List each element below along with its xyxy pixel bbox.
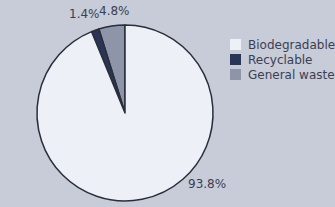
label-recyclable-pct: 1.4% <box>69 8 100 20</box>
swatch-biodegradable <box>230 39 241 50</box>
legend-label: Recyclable <box>248 54 313 66</box>
slice-biodegradable <box>37 25 213 201</box>
legend-item-recyclable: Recyclable <box>230 52 335 67</box>
legend-item-general-waste: General waste <box>230 67 335 82</box>
swatch-general-waste <box>230 69 241 80</box>
label-biodegradable-pct: 93.8% <box>188 178 226 190</box>
label-general-waste-pct: 4.8% <box>99 5 130 17</box>
legend-label: General waste <box>248 69 335 81</box>
legend: Biodegradable Recyclable General waste <box>230 37 335 82</box>
legend-label: Biodegradable <box>248 39 335 51</box>
legend-item-biodegradable: Biodegradable <box>230 37 335 52</box>
swatch-recyclable <box>230 54 241 65</box>
